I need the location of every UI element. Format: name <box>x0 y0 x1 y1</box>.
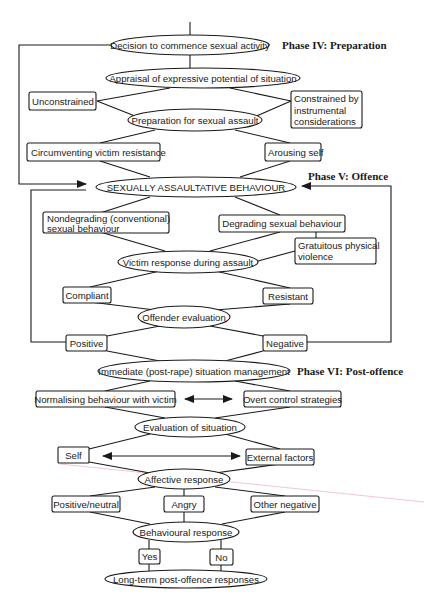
svg-text:instrumental: instrumental <box>294 105 346 116</box>
svg-text:Affective response: Affective response <box>145 474 224 485</box>
node-yes: Yes <box>139 549 160 564</box>
svg-text:Immediate (post-rape) situatio: Immediate (post-rape) situation manageme… <box>98 366 290 377</box>
svg-text:No: No <box>215 552 227 563</box>
node-unconstrained: Unconstrained <box>29 92 96 110</box>
svg-text:Unconstrained: Unconstrained <box>32 96 94 107</box>
phase-label-preparation: Phase IV: Preparation <box>282 39 387 51</box>
node-angry: Angry <box>164 496 204 512</box>
node-resistant: Resistant <box>263 288 313 304</box>
node-gratuitous-violence: Gratuitous physical violence <box>295 238 380 264</box>
svg-text:Other negative: Other negative <box>254 499 317 510</box>
node-arousing-self: Arousing self <box>265 143 324 161</box>
svg-text:Appraisal of expressive potent: Appraisal of expressive potential of sit… <box>109 73 296 84</box>
svg-text:External factors: External factors <box>247 452 314 463</box>
svg-text:violence: violence <box>298 251 333 262</box>
svg-text:SEXUALLY ASSAULTATIVE BEHAVIOU: SEXUALLY ASSAULTATIVE BEHAVIOUR <box>107 182 286 193</box>
node-decision: Decision to commence sexual activity <box>110 35 270 55</box>
node-overt-control: Overt control strategies <box>243 391 342 407</box>
svg-text:Offender evaluation: Offender evaluation <box>142 312 226 323</box>
svg-text:Arousing self: Arousing self <box>268 147 324 158</box>
phase-label-post-offence: Phase VI: Post-offence <box>297 365 403 377</box>
node-no: No <box>210 549 233 565</box>
node-other-negative: Other negative <box>251 496 319 512</box>
node-negative: Negative <box>263 335 307 351</box>
svg-text:Negative: Negative <box>266 338 304 349</box>
svg-text:Angry: Angry <box>171 499 196 510</box>
node-appraisal: Appraisal of expressive potential of sit… <box>106 68 300 88</box>
node-affective-response: Affective response <box>138 469 230 489</box>
svg-text:Behavioural response: Behavioural response <box>140 527 233 538</box>
svg-text:Gratuitous physical: Gratuitous physical <box>298 240 380 251</box>
node-normalising: Normalising behaviour with victim <box>34 391 176 407</box>
svg-text:Positive: Positive <box>70 338 104 349</box>
svg-text:Victim response during assault: Victim response during assault <box>123 257 254 268</box>
node-external-factors: External factors <box>246 449 314 465</box>
node-nondegrading: Nondegrading (conventional) sexual behav… <box>43 212 170 234</box>
node-behavioural-response: Behavioural response <box>133 522 239 542</box>
node-circumventing: Circumventing victim resistance <box>27 143 166 161</box>
svg-text:Normalising behaviour with vic: Normalising behaviour with victim <box>34 394 176 405</box>
node-long-term-responses: Long-term post-offence responses <box>105 570 267 588</box>
svg-text:Circumventing victim resistanc: Circumventing victim resistance <box>31 147 166 158</box>
svg-text:Long-term post-offence respons: Long-term post-offence responses <box>113 574 259 585</box>
node-compliant: Compliant <box>63 287 111 303</box>
offence-chain-diagram: Phase IV: Preparation Phase V: Offence P… <box>0 0 424 611</box>
node-victim-response: Victim response during assault <box>118 251 258 273</box>
node-evaluation-of-situation: Evaluation of situation <box>135 417 245 437</box>
svg-text:Positive/neutral: Positive/neutral <box>53 499 119 510</box>
svg-text:Constrained by: Constrained by <box>294 93 359 104</box>
node-preparation: Preparation for sexual assault <box>128 109 262 131</box>
svg-text:Compliant: Compliant <box>65 290 109 301</box>
node-positive-neutral: Positive/neutral <box>52 496 120 512</box>
node-self: Self <box>58 447 89 463</box>
node-positive: Positive <box>66 335 107 351</box>
svg-text:Self: Self <box>65 450 82 461</box>
phase-label-offence: Phase V: Offence <box>308 170 388 182</box>
node-immediate-management: Immediate (post-rape) situation manageme… <box>98 360 290 382</box>
svg-text:Resistant: Resistant <box>268 291 308 302</box>
svg-text:Preparation for sexual assault: Preparation for sexual assault <box>132 115 259 126</box>
svg-text:Decision to commence sexual ac: Decision to commence sexual activity <box>110 40 270 51</box>
node-offender-evaluation: Offender evaluation <box>138 306 230 328</box>
svg-text:sexual behaviour: sexual behaviour <box>47 223 120 234</box>
svg-text:Degrading sexual behaviour: Degrading sexual behaviour <box>222 218 342 229</box>
svg-text:Yes: Yes <box>142 551 158 562</box>
node-assaultative-behaviour: SEXUALLY ASSAULTATIVE BEHAVIOUR <box>96 177 296 197</box>
svg-text:Evaluation of situation: Evaluation of situation <box>143 422 237 433</box>
svg-text:Overt control strategies: Overt control strategies <box>243 394 342 405</box>
node-constrained: Constrained by instrumental consideratio… <box>291 91 362 128</box>
svg-text:considerations: considerations <box>294 116 356 127</box>
node-degrading: Degrading sexual behaviour <box>219 215 345 232</box>
